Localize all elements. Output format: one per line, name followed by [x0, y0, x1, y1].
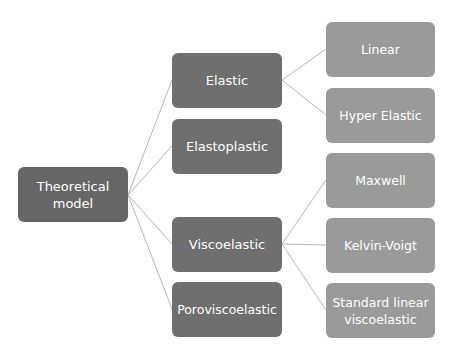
- node-linear: Linear: [326, 22, 435, 77]
- node-label-line1: Theoretical: [37, 178, 110, 195]
- node-viscoelastic: Viscoelastic: [172, 217, 282, 272]
- node-kelvin-voigt: Kelvin-Voigt: [326, 218, 435, 273]
- node-label: Elastic: [206, 72, 248, 89]
- node-label: Maxwell: [355, 172, 406, 189]
- node-poroviscoelastic: Poroviscoelastic: [172, 282, 282, 337]
- node-label-line2: model: [37, 195, 110, 212]
- node-label-line1: Standard linear: [332, 294, 428, 311]
- node-label: Hyper Elastic: [339, 107, 421, 124]
- node-label: Kelvin-Voigt: [344, 237, 417, 254]
- node-label: Poroviscoelastic: [177, 301, 277, 318]
- node-hyper-elastic: Hyper Elastic: [326, 88, 435, 143]
- node-theoretical-model: Theoretical model: [18, 167, 128, 222]
- node-label-line2: viscoelastic: [332, 311, 428, 328]
- node-elastic: Elastic: [172, 53, 282, 108]
- node-label: Viscoelastic: [189, 236, 265, 253]
- node-label: Elastoplastic: [186, 138, 268, 155]
- node-label: Linear: [361, 41, 400, 58]
- node-elastoplastic: Elastoplastic: [172, 119, 282, 174]
- node-maxwell: Maxwell: [326, 153, 435, 208]
- node-standard-linear-viscoelastic: Standard linear viscoelastic: [326, 283, 435, 338]
